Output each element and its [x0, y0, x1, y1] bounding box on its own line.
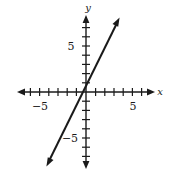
x-axis-left-arrowhead: [17, 89, 25, 96]
graph-canvas: −5 5 5 −5 x y: [0, 0, 173, 177]
x-axis-right-arrowhead: [147, 89, 155, 96]
coordinate-plane-graph: −5 5 5 −5 x y: [0, 0, 173, 177]
x-axis-name-label: x: [157, 86, 163, 97]
line-lower-arrowhead: [46, 157, 53, 166]
x-axis-positive-five-label: 5: [130, 100, 137, 113]
y-axis-top-arrowhead: [83, 15, 90, 23]
y-axis-bottom-arrowhead: [83, 161, 90, 169]
x-axis-negative-five-label: −5: [32, 100, 48, 113]
y-axis-negative-five-label: −5: [62, 132, 78, 145]
y-axis-positive-five-label: 5: [68, 40, 75, 53]
y-axis-name-label: y: [84, 2, 91, 13]
line-upper-arrowhead: [113, 18, 120, 27]
